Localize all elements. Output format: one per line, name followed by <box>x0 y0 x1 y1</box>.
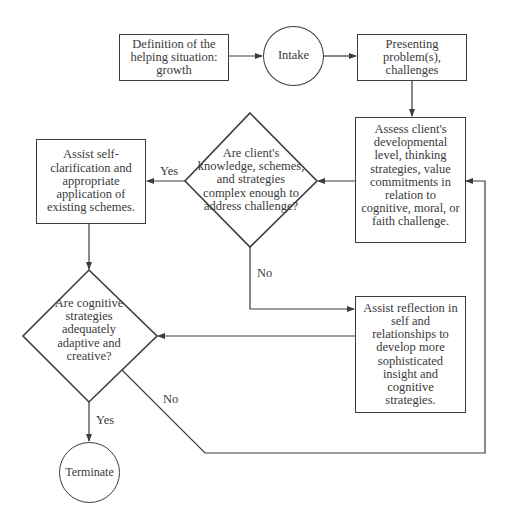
definition-box: Definition of the helping situation: gro… <box>119 34 229 81</box>
assist-self-box: Assist self-clarification and appropriat… <box>36 139 146 224</box>
assess-box: Assess client's developmental level, thi… <box>355 117 466 243</box>
label-no-adaptive: No <box>163 392 178 407</box>
terminate-circle: Terminate <box>59 442 120 503</box>
presenting-box: Presenting problem(s), challenges <box>357 34 467 81</box>
intake-circle: Intake <box>263 26 324 86</box>
assist-reflection-box: Assist reflection in self and relationsh… <box>355 296 466 413</box>
label-yes-adaptive: Yes <box>96 413 114 428</box>
assist-self-text: Assist self-clarification and appropriat… <box>45 148 137 214</box>
assist-reflection-text: Assist reflection in self and relationsh… <box>362 302 459 408</box>
label-yes-complex: Yes <box>160 164 178 179</box>
terminate-text: Terminate <box>65 466 113 479</box>
definition-text: Definition of the helping situation: gro… <box>124 38 224 78</box>
assess-text: Assess client's developmental level, thi… <box>361 123 460 229</box>
intake-text: Intake <box>278 49 309 62</box>
decision-complex-text: Are client's knowledge, schemes, and str… <box>192 124 310 236</box>
decision-adaptive-text: Are cognitive strategies adequately adap… <box>38 290 140 370</box>
label-no-complex: No <box>257 266 272 281</box>
presenting-text: Presenting problem(s), challenges <box>374 38 450 78</box>
